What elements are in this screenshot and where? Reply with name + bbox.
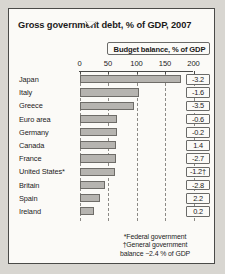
budget-balance-value: -2.8 (186, 180, 210, 191)
category-label-britain: Britain (19, 179, 75, 192)
x-tick-label-0: 0 (77, 59, 81, 68)
bar (80, 168, 115, 176)
bar (80, 141, 116, 149)
x-tick-mark-0 (80, 71, 81, 74)
x-tick-label-100: 100 (130, 59, 143, 68)
budget-balance-value: -1.2† (186, 167, 210, 178)
chart-row: Britain-2.8 (9, 179, 216, 192)
category-label-italy: Italy (19, 86, 75, 99)
x-tick-mark-100 (137, 71, 138, 74)
budget-balance-value: -0.6 (186, 114, 210, 125)
budget-balance-value: 0.2 (186, 206, 210, 217)
category-label-spain: Spain (19, 192, 75, 205)
budget-balance-value: -2.7 (186, 153, 210, 164)
chart-figure: Gross government debt, % of GDP, 2007 Bu… (8, 8, 215, 264)
x-tick-mark-200 (194, 71, 195, 74)
chart-title: Gross government debt, % of GDP, 2007 (18, 20, 208, 31)
bar (80, 181, 105, 189)
budget-balance-value: 2.2 (186, 193, 210, 204)
chart-row: Japan-3.2 (9, 73, 216, 86)
chart-row: Germany-0.2 (9, 126, 216, 139)
bar (80, 194, 101, 202)
category-label-united-states: United States* (19, 165, 75, 178)
x-tick-label-50: 50 (104, 59, 112, 68)
category-label-greece: Greece (19, 99, 75, 112)
bar (80, 75, 181, 83)
x-tick-label-150: 150 (159, 59, 172, 68)
chart-row: Spain2.2 (9, 192, 216, 205)
bar (80, 128, 117, 136)
footnote-line-1: *Federal government (105, 233, 205, 241)
budget-balance-value: -1.6 (186, 87, 210, 98)
footnote-line-2: †General government (105, 241, 205, 249)
budget-balance-callout-label: Budget balance, % of GDP (108, 43, 211, 56)
bar (80, 154, 116, 162)
category-label-canada: Canada (19, 139, 75, 152)
budget-balance-callout: Budget balance, % of GDP (107, 42, 210, 55)
x-tick-mark-150 (165, 71, 166, 74)
chart-row: Ireland0.2 (9, 205, 216, 218)
bar (80, 207, 94, 215)
category-label-ireland: Ireland (19, 205, 75, 218)
budget-balance-value: -3.5 (186, 101, 210, 112)
x-tick-mark-50 (108, 71, 109, 74)
chart-row: Greece-3.5 (9, 99, 216, 112)
category-label-euro-area: Euro area (19, 113, 75, 126)
category-label-france: France (19, 152, 75, 165)
footnote-line-3: balance −2.4 % of GDP (105, 250, 205, 258)
bar (80, 115, 118, 123)
budget-balance-value: -3.2 (186, 74, 210, 85)
chart-row: United States*-1.2† (9, 165, 216, 178)
bar (80, 88, 139, 96)
chart-row: France-2.7 (9, 152, 216, 165)
bar (80, 102, 134, 110)
x-axis-tick-labels: 050100150200 (9, 59, 216, 69)
chart-row: Italy-1.6 (9, 86, 216, 99)
category-label-germany: Germany (19, 126, 75, 139)
chart-plot-area: Japan-3.2Italy-1.6Greece-3.5Euro area-0.… (9, 73, 216, 221)
category-label-japan: Japan (19, 73, 75, 86)
x-tick-label-200: 200 (187, 59, 200, 68)
budget-balance-value: 1.4 (186, 140, 210, 151)
chart-footnotes: *Federal government†General governmentba… (105, 233, 205, 258)
callout-tail-icon (85, 21, 98, 28)
chart-row: Euro area-0.6 (9, 113, 216, 126)
budget-balance-value: -0.2 (186, 127, 210, 138)
chart-row: Canada1.4 (9, 139, 216, 152)
